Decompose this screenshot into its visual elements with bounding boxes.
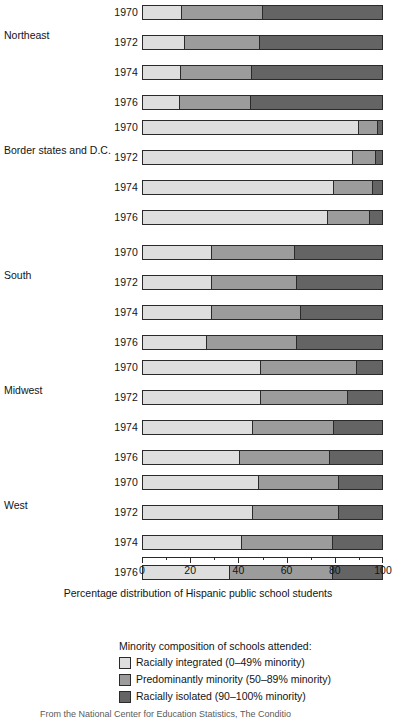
bar-segment-0 — [143, 246, 211, 259]
stacked-bar — [142, 475, 383, 490]
bar-segment-2 — [375, 151, 382, 164]
bar-row: 1972 — [142, 35, 383, 50]
bar-segment-0 — [143, 66, 180, 79]
bar-segment-1 — [352, 151, 375, 164]
x-axis-minor-tick — [214, 557, 215, 560]
x-axis-minor-tick — [166, 557, 167, 560]
legend-item-predominantly-minority: Predominantly minority (50–89% minority) — [119, 672, 389, 687]
stacked-bar — [142, 210, 383, 225]
bar-row: 1972 — [142, 150, 383, 165]
legend-label-racially-isolated: Racially isolated (90–100% minority) — [136, 690, 306, 703]
bar-segment-1 — [252, 421, 334, 434]
bar-segment-1 — [180, 66, 251, 79]
x-axis-tick-label: 80 — [329, 564, 341, 577]
stacked-bar — [142, 335, 383, 350]
bar-segment-2 — [262, 6, 382, 19]
bar-segment-0 — [143, 96, 179, 109]
bar-segment-0 — [143, 336, 206, 349]
bar-segment-0 — [143, 476, 258, 489]
bar-segment-0 — [143, 536, 241, 549]
x-axis-tick-label: 40 — [233, 564, 245, 577]
x-axis-minor-tick — [263, 557, 264, 560]
x-axis-minor-tick — [359, 557, 360, 560]
bar-segment-0 — [143, 306, 211, 319]
region-plot-area: 1970197219741976 — [142, 5, 383, 65]
stacked-bar — [142, 450, 383, 465]
bar-segment-0 — [143, 276, 211, 289]
bar-segment-0 — [143, 451, 239, 464]
bar-segment-2 — [338, 476, 382, 489]
bar-row: 1976 — [142, 335, 383, 350]
region-group: South1970197219741976 — [0, 245, 396, 305]
bar-segment-1 — [252, 506, 338, 519]
stacked-bar — [142, 245, 383, 260]
stacked-bar — [142, 120, 383, 135]
bar-segment-2 — [259, 36, 382, 49]
legend-label-integrated: Racially integrated (0–49% minority) — [136, 656, 305, 669]
year-label: 1976 — [104, 450, 138, 465]
year-label: 1974 — [104, 305, 138, 320]
year-label: 1974 — [104, 65, 138, 80]
bar-row: 1972 — [142, 390, 383, 405]
bar-segment-2 — [296, 336, 382, 349]
bar-segment-0 — [143, 391, 260, 404]
x-axis-tick — [287, 557, 288, 563]
stacked-bar — [142, 360, 383, 375]
bar-row: 1970 — [142, 120, 383, 135]
legend-swatch-integrated — [119, 657, 131, 669]
bar-segment-0 — [143, 421, 252, 434]
year-label: 1976 — [104, 335, 138, 350]
x-axis-tick-label: 100 — [374, 564, 392, 577]
bar-segment-1 — [179, 96, 250, 109]
bar-segment-1 — [258, 476, 338, 489]
bar-segment-1 — [211, 276, 296, 289]
bar-segment-2 — [372, 181, 382, 194]
bar-row: 1976 — [142, 210, 383, 225]
x-axis-tick — [142, 557, 143, 563]
x-axis-tick — [190, 557, 191, 563]
bar-segment-1 — [358, 121, 378, 134]
region-group: Northeast1970197219741976 — [0, 5, 396, 65]
region-plot-area: 1970197219741976 — [142, 120, 383, 180]
bar-segment-1 — [333, 181, 371, 194]
stacked-bar — [142, 5, 383, 20]
bar-segment-2 — [296, 276, 382, 289]
region-plot-area: 1970197219741976 — [142, 360, 383, 420]
stacked-bar — [142, 305, 383, 320]
x-axis-tick — [335, 557, 336, 563]
year-label: 1970 — [104, 475, 138, 490]
year-label: 1974 — [104, 420, 138, 435]
stacked-bar — [142, 275, 383, 290]
bar-segment-1 — [211, 306, 300, 319]
source-note: From the National Center for Education S… — [40, 709, 396, 720]
x-axis-tick — [238, 557, 239, 563]
bar-segment-1 — [327, 211, 369, 224]
stacked-bar — [142, 180, 383, 195]
bar-row: 1976 — [142, 95, 383, 110]
year-label: 1972 — [104, 505, 138, 520]
year-label: 1970 — [104, 5, 138, 20]
bar-segment-0 — [143, 506, 252, 519]
bar-segment-2 — [347, 391, 382, 404]
stacked-bar — [142, 535, 383, 550]
bar-segment-1 — [184, 36, 259, 49]
bar-segment-0 — [143, 36, 184, 49]
bar-row: 1974 — [142, 420, 383, 435]
region-group: Border states and D.C.1970197219741976 — [0, 120, 396, 180]
stacked-bar — [142, 95, 383, 110]
legend: Minority composition of schools attended… — [119, 639, 389, 706]
bar-segment-0 — [143, 361, 260, 374]
bar-segment-2 — [377, 121, 382, 134]
x-axis-tick — [382, 557, 383, 563]
bar-segment-2 — [332, 536, 382, 549]
x-axis-tick-label: 60 — [281, 564, 293, 577]
bar-segment-2 — [338, 506, 382, 519]
bar-segment-2 — [251, 66, 382, 79]
x-axis-tick-label: 20 — [184, 564, 196, 577]
x-axis-title: Percentage distribution of Hispanic publ… — [0, 587, 396, 599]
year-label: 1974 — [104, 535, 138, 550]
region-group: West1970197219741976 — [0, 475, 396, 535]
bar-segment-0 — [143, 6, 181, 19]
bar-segment-2 — [294, 246, 382, 259]
stacked-bar — [142, 35, 383, 50]
